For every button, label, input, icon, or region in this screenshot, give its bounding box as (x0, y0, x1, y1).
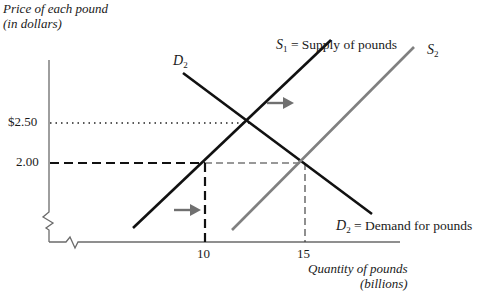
supply-curve-s1 (133, 40, 331, 228)
s1-description: = Supply of pounds (288, 37, 398, 52)
d2-symbol: D (336, 218, 346, 233)
supply-curve-s2 (232, 47, 414, 230)
right-arrow-icon (174, 204, 201, 216)
x-axis (49, 237, 400, 248)
y-tick-2-50: $2.50 (8, 115, 37, 130)
x-axis-title-line2: (billions) (308, 277, 408, 292)
d2-top-label: D2 (173, 53, 188, 70)
demand-curve-d2 (183, 73, 372, 214)
d2-top-symbol: D (173, 53, 183, 68)
right-arrow-icon (267, 97, 294, 109)
s1-label: S1 = Supply of pounds (276, 37, 397, 54)
x-axis-title-line1: Quantity of pounds (308, 262, 408, 277)
y-tick-2-00: 2.00 (16, 155, 39, 170)
x-tick-15: 15 (297, 247, 310, 262)
supply-demand-diagram (0, 0, 479, 294)
x-tick-10: 10 (197, 247, 210, 262)
d2-label: D2 = Demand for pounds (336, 218, 472, 235)
s2-symbol: S (427, 42, 434, 57)
d2-description: = Demand for pounds (351, 218, 473, 233)
y-axis-title-line2: (in dollars) (3, 17, 108, 32)
y-axis-title: Price of each pound (in dollars) (3, 2, 108, 32)
y-axis-title-line1: Price of each pound (3, 2, 108, 17)
x-axis-title: Quantity of pounds (billions) (308, 262, 408, 292)
s2-label: S2 (427, 42, 439, 59)
s1-symbol: S (276, 37, 283, 52)
y-axis (43, 60, 53, 242)
d2-top-subscript: 2 (183, 60, 188, 70)
s2-subscript: 2 (434, 49, 439, 59)
